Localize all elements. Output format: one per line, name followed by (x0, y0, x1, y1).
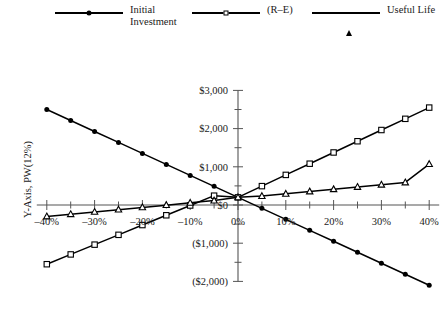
filled-circle-marker-icon (116, 140, 121, 145)
filled-circle-marker-icon (403, 272, 408, 277)
open-square-marker-icon (224, 11, 229, 16)
filled-circle-marker-icon (331, 239, 336, 244)
filled-circle-marker-icon (379, 261, 384, 266)
filled-circle-marker-icon (140, 151, 145, 156)
legend-item-initial-investment: Initial Investment (55, 4, 177, 27)
open-square-marker-icon (44, 262, 49, 267)
y-axis-tick-label: $3,000 (199, 85, 228, 96)
x-axis-tick-label: 0% (231, 216, 245, 227)
filled-circle-marker-icon (188, 173, 193, 178)
legend-sample-initial-investment (55, 6, 123, 20)
legend-item-useful-life: Useful Life (312, 4, 435, 20)
x-axis-tick-label: 20% (324, 216, 344, 227)
open-square-marker-icon (331, 150, 336, 155)
filled-circle-marker-icon (44, 107, 49, 112)
filled-circle-marker-icon (355, 250, 360, 255)
filled-circle-marker-icon (92, 129, 97, 134)
y-axis-tick-label: $0 (218, 200, 229, 211)
open-square-marker-icon (68, 252, 73, 257)
open-triangle-marker-icon (426, 161, 432, 167)
filled-circle-marker-icon (68, 118, 73, 123)
filled-circle-marker-icon (259, 206, 264, 211)
x-axis-tick-label: –30% (81, 216, 107, 227)
x-axis-tick-label: 30% (372, 216, 392, 227)
open-square-marker-icon (259, 183, 264, 188)
open-square-marker-icon (355, 139, 360, 144)
open-square-marker-icon (427, 105, 432, 110)
x-axis-tick-label: –10% (177, 216, 203, 227)
open-square-marker-icon (116, 232, 121, 237)
x-axis-tick-label: 40% (420, 216, 440, 227)
filled-circle-marker-icon (164, 162, 169, 167)
legend-label-initial-investment: Initial Investment (130, 4, 177, 27)
y-axis-tick-label: ($2,000) (192, 276, 228, 288)
x-axis-tick-label: 10% (276, 216, 296, 227)
filled-circle-marker-icon (87, 11, 92, 16)
open-square-marker-icon (403, 116, 408, 121)
filled-circle-marker-icon (307, 228, 312, 233)
chart-legend: Initial Investment (R–E) Useful Life (0, 4, 448, 46)
open-square-marker-icon (92, 242, 97, 247)
open-square-marker-icon (379, 127, 384, 132)
x-axis-tick-label: –40% (34, 216, 60, 227)
open-square-marker-icon (307, 161, 312, 166)
y-axis-tick-label: $2,000 (199, 123, 228, 134)
legend-label-r-minus-e: (R–E) (267, 4, 293, 16)
legend-sample-r-minus-e (192, 6, 260, 20)
open-triangle-marker-icon (346, 13, 352, 36)
chart-svg: $3,000$2,000$1,000$0($1,000)($2,000)–40%… (0, 46, 448, 316)
x-axis-tick-label: –20% (129, 216, 155, 227)
chart-root: Initial Investment (R–E) Useful Life Y-A… (0, 0, 448, 316)
filled-circle-marker-icon (427, 283, 432, 288)
open-square-marker-icon (283, 172, 288, 177)
legend-item-r-minus-e: (R–E) (192, 4, 293, 20)
legend-label-useful-life: Useful Life (387, 4, 435, 16)
y-axis-tick-label: $1,000 (199, 162, 228, 173)
y-axis-tick-label: ($1,000) (192, 238, 228, 250)
legend-sample-useful-life (312, 6, 380, 20)
open-square-marker-icon (164, 213, 169, 218)
filled-circle-marker-icon (212, 184, 217, 189)
plot-area: Y-Axis, PW(12%) $3,000$2,000$1,000$0($1,… (0, 46, 448, 316)
